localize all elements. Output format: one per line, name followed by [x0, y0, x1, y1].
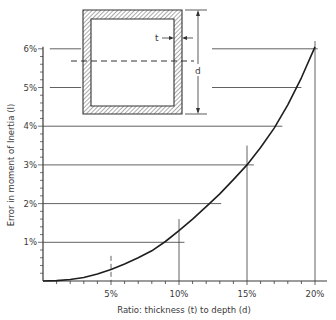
x-tick-label: 20% [306, 289, 325, 299]
y-tick-label: 3% [24, 160, 38, 170]
t-arrow-left-icon [169, 36, 174, 40]
x-tick-label: 5% [104, 289, 118, 299]
y-tick-label: 1% [24, 237, 38, 247]
t-label: t [155, 33, 159, 43]
y-tick-label: 4% [24, 121, 38, 131]
d-arrow-down-icon [196, 108, 200, 114]
cross-section-diagram: t d [71, 10, 207, 114]
y-tick-label: 6% [24, 44, 38, 54]
x-tick-label: 15% [238, 289, 257, 299]
y-axis-title: Error in moment of Inertia (I) [6, 104, 16, 227]
chart: 5%10%15%20%1%2%3%4%5%6% t d Ratio: thick… [0, 0, 336, 320]
d-arrow-up-icon [196, 10, 200, 16]
hollow-section-wall [83, 10, 182, 114]
y-tick-label: 5% [24, 83, 38, 93]
d-label: d [195, 66, 201, 76]
x-tick-label: 10% [170, 289, 189, 299]
t-arrow-right-icon [182, 36, 187, 40]
y-tick-label: 2% [24, 199, 38, 209]
x-axis-title: Ratio: thickness (t) to depth (d) [117, 305, 251, 315]
